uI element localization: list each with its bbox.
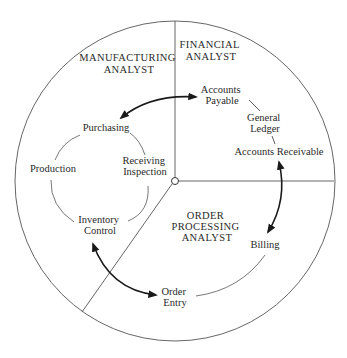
analyst-domain-diagram: MANUFACTURING ANALYST FINANCIAL ANALYST … bbox=[0, 0, 347, 358]
node-accounts-receivable: Accounts Receivable bbox=[235, 146, 324, 157]
connector-receiving-purchasing bbox=[130, 133, 145, 155]
divider-diagonal bbox=[82, 184, 172, 312]
connector-ledger-receivable bbox=[272, 136, 275, 144]
node-general-ledger: General Ledger bbox=[247, 112, 283, 134]
connector-inventory-receiving bbox=[128, 186, 148, 221]
node-purchasing: Purchasing bbox=[83, 122, 130, 133]
node-inventory-control: Inventory Control bbox=[78, 214, 121, 236]
node-receiving-inspection: Receiving Inspection bbox=[122, 155, 167, 177]
center-node bbox=[172, 178, 179, 185]
role-order-processing-analyst: ORDER PROCESSING ANALYST bbox=[171, 210, 242, 243]
role-manufacturing-analyst: MANUFACTURING ANALYST bbox=[79, 52, 179, 75]
node-accounts-payable: Accounts Payable bbox=[201, 84, 243, 106]
connector-production-inventory bbox=[51, 180, 74, 222]
connector-purchasing-production bbox=[55, 135, 80, 160]
node-billing: Billing bbox=[250, 239, 280, 250]
interface-arrow-receivable-billing bbox=[268, 162, 282, 232]
node-order-entry: Order Entry bbox=[161, 286, 188, 308]
interface-arrow-purchasing-payable bbox=[121, 97, 196, 118]
node-production: Production bbox=[30, 163, 77, 174]
role-financial-analyst: FINANCIAL ANALYST bbox=[180, 39, 243, 62]
connector-billing-order-entry bbox=[196, 255, 265, 296]
connector-payable-ledger bbox=[249, 100, 260, 111]
